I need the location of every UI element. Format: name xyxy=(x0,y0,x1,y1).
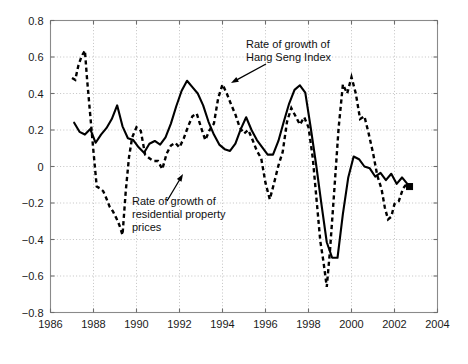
series-endpoint-marker xyxy=(407,184,413,190)
y-axis-tick-label: −0.6 xyxy=(22,270,44,282)
x-axis-tick-label: 1998 xyxy=(296,318,320,330)
y-axis-tick-label: 0.2 xyxy=(28,124,43,136)
x-axis-tick-label: 2004 xyxy=(425,318,449,330)
annotation-label-line: Hang Seng Index xyxy=(246,51,332,63)
x-axis-tick-label: 1990 xyxy=(124,318,148,330)
y-axis-tick-label: 0.6 xyxy=(28,51,43,63)
annotation-label-line: residential property xyxy=(132,208,226,220)
annotation-label-line: Rate of growth of xyxy=(246,38,331,50)
y-axis-tick-label: −0.4 xyxy=(22,234,44,246)
x-axis-tick-label: 1986 xyxy=(38,318,62,330)
x-axis-tick-label: 1988 xyxy=(81,318,105,330)
y-axis-tick-label: −0.8 xyxy=(22,307,44,319)
y-axis-tick-label: 0.4 xyxy=(28,88,43,100)
y-axis-tick-label: 0 xyxy=(37,161,43,173)
line-chart: Rate of growth of residential property p… xyxy=(0,0,468,364)
figure-container: Rate of growth of residential property p… xyxy=(0,0,468,364)
annotation-label-line: Rate of growth of xyxy=(132,195,217,207)
x-axis-tick-label: 1994 xyxy=(210,318,234,330)
x-axis-tick-label: 1996 xyxy=(253,318,277,330)
y-axis-tick-label: 0.8 xyxy=(28,15,43,27)
x-axis-tick-label: 2000 xyxy=(339,318,363,330)
x-axis-tick-label: 1992 xyxy=(167,318,191,330)
x-axis-tick-label: 2002 xyxy=(382,318,406,330)
y-axis-tick-label: −0.2 xyxy=(22,197,44,209)
annotation-label-line: prices xyxy=(132,221,162,233)
